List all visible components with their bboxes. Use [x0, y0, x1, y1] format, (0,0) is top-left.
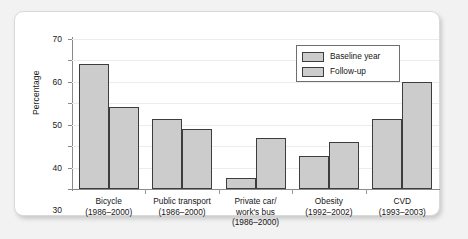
y-tick-mark: 10 [68, 168, 72, 169]
x-category-label-line: Obesity [292, 196, 365, 207]
chart-legend: Baseline year Follow-up [296, 45, 400, 82]
x-category-label: Obesity(1992–2002) [292, 196, 365, 217]
gridline [72, 189, 439, 190]
y-tick-mark: 50 [68, 82, 72, 83]
x-category-label: Private car/work's bus(1986–2000) [219, 196, 292, 228]
x-tick-mark [366, 189, 367, 194]
y-tick-label: 60 [53, 78, 62, 87]
y-tick-label: 30 [53, 206, 62, 215]
x-category-label: Bicycle(1986–2000) [72, 196, 145, 217]
x-category-label-line: Private car/ [219, 196, 292, 207]
bar-followup [109, 107, 139, 190]
bar-group [152, 39, 212, 189]
bar-followup [256, 138, 286, 189]
x-category-label-line: (1986–2000) [72, 207, 145, 218]
y-tick-mark: 70 [68, 39, 72, 40]
y-tick-label: 70 [53, 35, 62, 44]
x-tick-mark [292, 189, 293, 194]
y-tick-mark: 20 [68, 146, 72, 147]
x-category-label: Public transport(1986–2000) [145, 196, 218, 217]
y-tick-label: 50 [53, 120, 62, 129]
x-category-label: CVD(1993–2003) [366, 196, 439, 217]
bar-group [226, 39, 286, 189]
x-category-label-line: (1986–2000) [145, 207, 218, 218]
bar-baseline [226, 178, 256, 189]
x-category-label-line: (1992–2002) [292, 207, 365, 218]
x-category-label-line: CVD [366, 196, 439, 207]
x-category-label-line: (1993–2003) [366, 207, 439, 218]
bar-baseline [372, 119, 402, 189]
legend-label-followup: Follow-up [330, 67, 366, 75]
bar-followup [182, 129, 212, 189]
chart-panel: Percentage 010203040506070 Baseline year… [14, 11, 440, 216]
legend-swatch-followup [302, 67, 324, 77]
legend-label-baseline: Baseline year [330, 52, 380, 60]
y-tick-label: 40 [53, 163, 62, 172]
y-tick-mark: 60 [68, 60, 72, 61]
x-axis-category-labels: Bicycle(1986–2000)Public transport(1986–… [72, 196, 440, 228]
bar-followup [329, 142, 359, 189]
legend-swatch-baseline [302, 52, 324, 62]
bar-group [79, 39, 139, 189]
x-tick-mark [219, 189, 220, 194]
y-axis-title: Percentage [31, 71, 41, 115]
x-category-label-line: Bicycle [72, 196, 145, 207]
x-tick-mark [145, 189, 146, 194]
x-category-label-line: work's bus [219, 207, 292, 218]
y-tick-mark: 0 [68, 189, 72, 190]
x-category-label-line: (1986–2000) [219, 217, 292, 228]
legend-item-followup: Follow-up [302, 65, 394, 78]
bar-baseline [152, 119, 182, 189]
bar-baseline [299, 156, 329, 189]
legend-item-baseline: Baseline year [302, 50, 394, 63]
chart-page: Percentage 010203040506070 Baseline year… [0, 0, 468, 239]
bar-baseline [79, 64, 109, 189]
x-category-label-line: Public transport [145, 196, 218, 207]
y-tick-mark: 40 [68, 103, 72, 104]
bar-followup [402, 82, 432, 189]
y-tick-mark: 30 [68, 125, 72, 126]
